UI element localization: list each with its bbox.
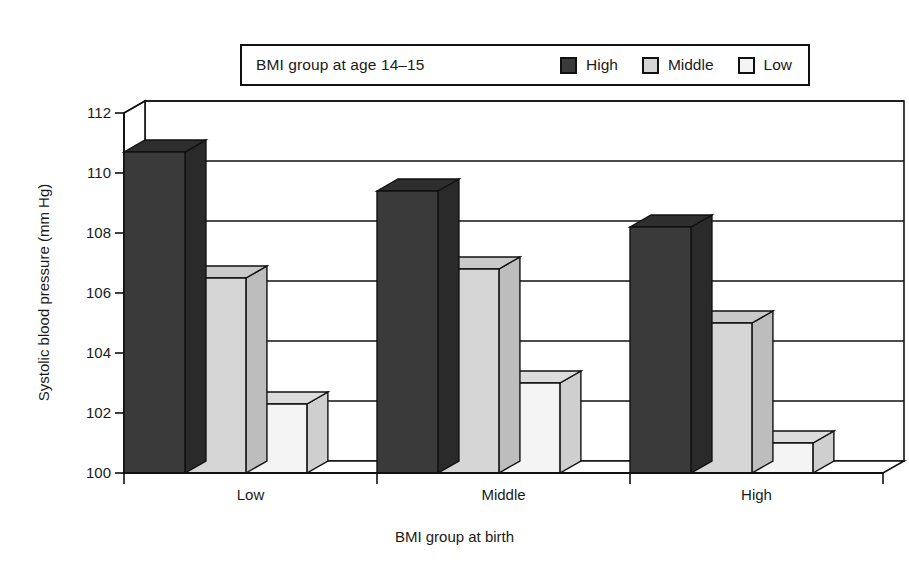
bar-high-high-side bbox=[691, 215, 712, 473]
bar-low-high-front bbox=[124, 152, 185, 473]
x-category-label-low: Low bbox=[191, 486, 311, 503]
y-tick-label: 102 bbox=[65, 404, 111, 421]
y-tick-label: 110 bbox=[65, 164, 111, 181]
bar-middle-high-side bbox=[438, 179, 459, 473]
x-category-label-high: High bbox=[697, 486, 817, 503]
x-category-label-middle: Middle bbox=[444, 486, 564, 503]
y-tick-label: 106 bbox=[65, 284, 111, 301]
bar-middle-high-front bbox=[377, 191, 438, 473]
bar-middle-middle-side bbox=[499, 257, 520, 473]
plot-area: 100102104106108110112LowMiddleHigh bbox=[0, 0, 909, 575]
bar-high-middle-side bbox=[752, 311, 773, 473]
y-tick-label: 104 bbox=[65, 344, 111, 361]
y-tick-label: 112 bbox=[65, 104, 111, 121]
y-tick-label: 100 bbox=[65, 464, 111, 481]
bar-low-high-side bbox=[185, 140, 206, 473]
chart-figure: BMI group at age 14–15 High Middle Low S… bbox=[0, 0, 909, 575]
bar-high-high-front bbox=[630, 227, 691, 473]
bar-low-low-side bbox=[307, 392, 328, 473]
y-tick-label: 108 bbox=[65, 224, 111, 241]
bar-middle-low-side bbox=[560, 371, 581, 473]
bar-low-middle-side bbox=[246, 266, 267, 473]
